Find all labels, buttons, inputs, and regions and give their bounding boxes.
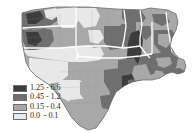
legend-swatch-class-2: [13, 94, 27, 101]
legend-swatch-class-4: [13, 113, 27, 120]
legend-label-class-2: 0.45 - 1.2: [30, 93, 60, 102]
map-legend: 1.25 - 6.6 0.45 - 1.2 0.15 - 0.4 0.0 - 0…: [13, 84, 75, 122]
legend-label-class-1: 1.25 - 6.6: [30, 84, 60, 93]
legend-label-class-4: 0.0 - 0.1: [30, 112, 58, 121]
legend-item-class-3: 0.15 - 0.4: [13, 103, 75, 112]
legend-swatch-class-3: [13, 104, 27, 111]
legend-swatch-class-1: [13, 85, 27, 92]
choropleth-figure: 1.25 - 6.6 0.45 - 1.2 0.15 - 0.4 0.0 - 0…: [0, 0, 194, 133]
legend-item-class-2: 0.45 - 1.2: [13, 93, 75, 102]
legend-label-class-3: 0.15 - 0.4: [30, 103, 60, 112]
legend-item-class-1: 1.25 - 6.6: [13, 84, 75, 93]
legend-item-class-4: 0.0 - 0.1: [13, 112, 75, 121]
